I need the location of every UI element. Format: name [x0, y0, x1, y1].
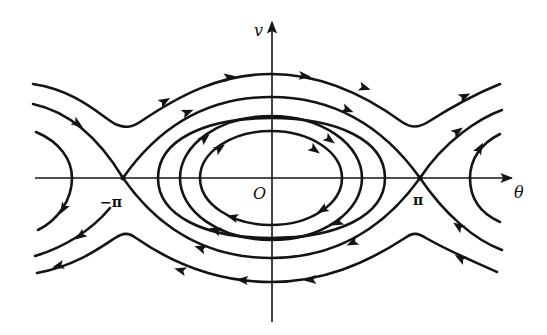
- pi-label: π: [413, 192, 423, 208]
- neg-pi-label: −π: [100, 194, 122, 210]
- right-lower-separatrix-branch: [420, 178, 502, 250]
- left-upper-separatrix-branch: [33, 104, 123, 178]
- left-saddle-point: [121, 176, 126, 181]
- phase-portrait-diagram: v θ O −π π: [0, 0, 547, 335]
- right-saddle-point: [418, 176, 423, 181]
- left-partial-orbit: [36, 132, 72, 230]
- origin-label: O: [253, 184, 266, 203]
- theta-axis-label: θ: [514, 183, 524, 202]
- v-axis-label: v: [254, 21, 263, 40]
